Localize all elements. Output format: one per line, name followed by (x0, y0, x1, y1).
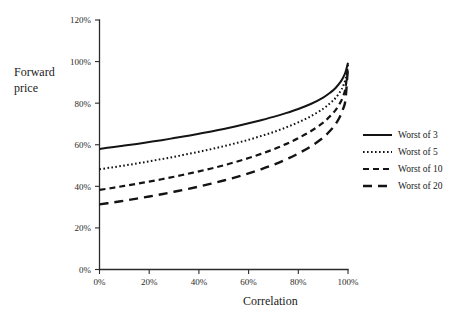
y-tick-label: 20% (75, 223, 92, 233)
y-tick-label: 100% (70, 57, 92, 67)
y-tick-label: 40% (75, 182, 92, 192)
y-tick-label: 80% (75, 99, 92, 109)
legend-label-worst-of-5: Worst of 5 (398, 147, 438, 157)
chart-figure: 0%20%40%60%80%100%120% 0%20%40%60%80%100… (0, 0, 454, 315)
x-tick-label: 80% (290, 277, 307, 287)
y-tick-label: 120% (70, 15, 92, 25)
x-tick-label: 100% (338, 277, 360, 287)
legend-label-worst-of-20: Worst of 20 (398, 181, 443, 191)
x-tick-label: 0% (94, 277, 107, 287)
forward-price-correlation-chart: 0%20%40%60%80%100%120% 0%20%40%60%80%100… (0, 0, 454, 315)
x-tick-label: 60% (240, 277, 257, 287)
legend-label-worst-of-10: Worst of 10 (398, 164, 443, 174)
y-tick-label: 60% (75, 140, 92, 150)
x-axis-title: Correlation (243, 294, 298, 308)
x-tick-label: 20% (141, 277, 158, 287)
chart-background (0, 0, 454, 315)
y-tick-label: 0% (79, 265, 92, 275)
x-tick-label: 40% (191, 277, 208, 287)
legend-label-worst-of-3: Worst of 3 (398, 130, 438, 140)
y-axis-title-line1: Forward (14, 65, 55, 79)
y-axis-title-line2: price (14, 81, 38, 95)
